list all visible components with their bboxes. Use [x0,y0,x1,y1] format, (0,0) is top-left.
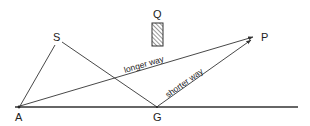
segment-s-g [62,42,157,107]
reflection-path-diagram: A S G P Q longer way shorter way [0,0,310,126]
label-q: Q [153,8,162,20]
point-g-marker [156,106,158,108]
shorter-way-label: shorter way [163,66,205,100]
point-a-marker [18,106,21,109]
label-s: S [53,31,60,43]
obstacle-q [152,23,163,46]
longer-way-label: longer way [123,53,166,74]
label-a: A [15,111,23,123]
label-p: P [261,31,268,43]
label-g: G [153,111,162,123]
